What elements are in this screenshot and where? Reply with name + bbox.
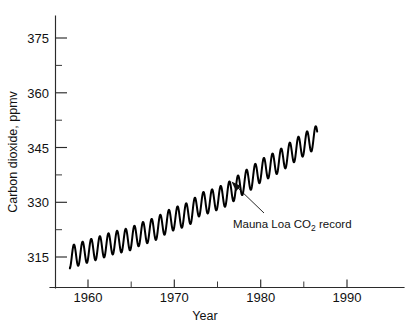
keeling-curve-chart: 375 360 345 330 315 1960 1970 1980 1990: [0, 0, 410, 334]
chart-figure: 375 360 345 330 315 1960 1970 1980 1990: [0, 0, 410, 334]
x-tick-label-1990: 1990: [333, 290, 362, 305]
x-tick-label-1960: 1960: [74, 290, 103, 305]
chart-background: [0, 0, 410, 334]
annotation-suffix: record: [316, 218, 352, 230]
y-tick-label-330: 330: [27, 195, 49, 210]
annotation-prefix: Mauna Loa CO: [233, 218, 311, 230]
y-tick-label-315: 315: [27, 250, 49, 265]
x-axis-title: Year: [192, 309, 217, 323]
y-tick-label-360: 360: [27, 86, 49, 101]
y-tick-label-375: 375: [27, 31, 49, 46]
y-axis-title: Carbon dioxide, ppmv: [6, 90, 20, 212]
x-tick-label-1980: 1980: [246, 290, 275, 305]
y-tick-label-345: 345: [27, 141, 49, 156]
x-tick-label-1970: 1970: [160, 290, 189, 305]
